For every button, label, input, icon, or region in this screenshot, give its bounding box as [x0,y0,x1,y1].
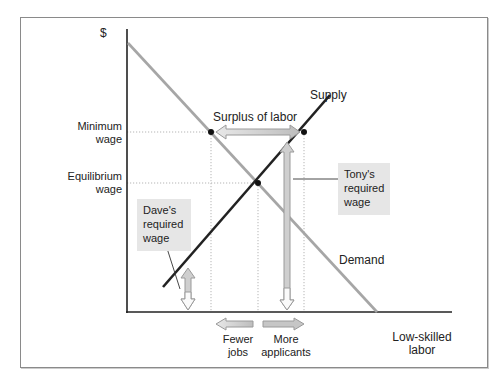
dave-callout: Dave's required wage [137,199,191,251]
min-wage-supply-point [301,129,307,135]
demand-label: Demand [339,254,384,267]
tony-arrow [280,142,294,310]
fewer-jobs-arrow [216,318,253,330]
tony-callout: Tony's required wage [338,163,390,215]
surplus-arrow [216,125,300,139]
supply-label: Supply [310,89,347,102]
minimum-wage-label: Minimum wage [50,120,122,146]
surplus-label: Surplus of labor [213,111,297,124]
min-wage-demand-point [208,129,214,135]
dave-arrow [181,268,195,310]
x-axis-label: Low-skilled labor [376,331,468,357]
more-applicants-label: More applicants [258,333,314,359]
equilibrium-wage-label: Equilibrium wage [40,170,122,196]
more-applicants-arrow [263,318,304,330]
fewer-jobs-label: Fewer jobs [218,333,258,359]
equilibrium-point [255,180,261,186]
y-axis-label: $ [100,27,107,40]
